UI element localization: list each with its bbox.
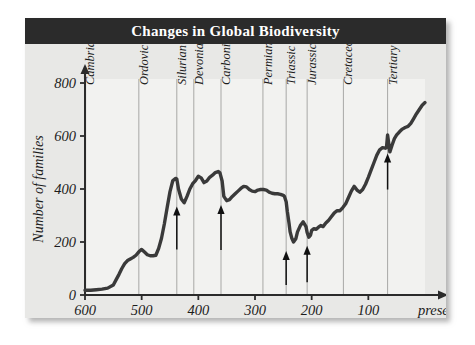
plot-background [83, 79, 425, 295]
x-tick-label-300: 300 [243, 302, 267, 318]
y-tick-label-400: 400 [54, 181, 77, 197]
period-label-silurian: Silurian [175, 45, 189, 85]
x-tick-label-400: 400 [187, 302, 210, 318]
x-tick-label-100: 100 [357, 302, 380, 318]
y-tick-label-800: 800 [54, 75, 77, 91]
y-tick-label-0: 0 [69, 287, 77, 303]
period-label-permian: Permian [261, 44, 275, 86]
period-label-cretaceous: Cretaceous [341, 44, 355, 85]
figure-card: Changes in Global Biodiversity CambrianO… [25, 18, 446, 318]
y-tick-label-200: 200 [54, 234, 77, 250]
x-tick-label-500: 500 [131, 302, 154, 318]
x-tick-label-200: 200 [301, 302, 324, 318]
y-axis-title: Number of families [31, 135, 46, 244]
period-label-triassic: Triassic [284, 45, 298, 85]
period-label-carboniferous: Carboniferous [219, 44, 233, 85]
y-tick-label-600: 600 [54, 128, 77, 144]
x-tick-label-present: present [417, 302, 446, 318]
page-title: Changes in Global Biodiversity [131, 23, 340, 40]
period-label-ordovician: Ordovician [137, 44, 151, 85]
period-label-jurassic: Jurassic [305, 44, 319, 85]
period-label-devonian: Devonian [192, 44, 206, 86]
plot-area: CambrianOrdovicianSilurianDevonianCarbon… [25, 44, 446, 318]
x-axis-arrowhead [438, 291, 446, 300]
chart-title-bar: Changes in Global Biodiversity [25, 18, 446, 44]
biodiversity-line-chart: CambrianOrdovicianSilurianDevonianCarbon… [25, 44, 446, 318]
x-tick-label-600: 600 [74, 302, 97, 318]
period-label-tertiary: Tertiary [386, 45, 400, 85]
